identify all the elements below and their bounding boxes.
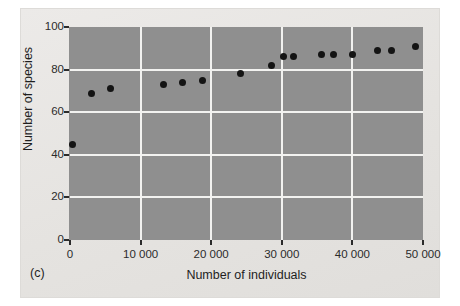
panel-label: (c) xyxy=(30,266,45,280)
data-point xyxy=(199,77,206,84)
gridline-horizontal xyxy=(70,154,423,156)
data-point xyxy=(237,70,244,77)
x-tick-label: 30 000 xyxy=(264,249,299,261)
gridline-vertical xyxy=(140,27,142,240)
data-point xyxy=(268,62,275,69)
data-point xyxy=(330,51,337,58)
data-point xyxy=(107,85,114,92)
y-tick-mark xyxy=(64,26,69,28)
x-tick-label: 40 000 xyxy=(335,249,370,261)
x-tick-mark xyxy=(422,240,424,245)
data-point xyxy=(412,43,419,50)
x-tick-mark xyxy=(69,240,71,245)
y-tick-mark xyxy=(64,111,69,113)
data-point xyxy=(318,51,325,58)
plot-area xyxy=(70,27,423,240)
figure-container: 020406080100 010 00020 00030 00040 00050… xyxy=(0,0,460,306)
gridline-horizontal xyxy=(70,69,423,71)
gridline-horizontal xyxy=(70,196,423,198)
x-axis-title: Number of individuals xyxy=(70,268,423,282)
gridline-vertical xyxy=(351,27,353,240)
gridline-horizontal xyxy=(70,111,423,113)
data-point xyxy=(374,47,381,54)
data-point xyxy=(88,90,95,97)
x-tick-mark xyxy=(351,240,353,245)
y-tick-mark xyxy=(64,196,69,198)
data-point xyxy=(179,79,186,86)
data-point xyxy=(290,53,297,60)
x-tick-label: 50 000 xyxy=(405,249,440,261)
data-point xyxy=(69,141,76,148)
y-tick-label: 20 xyxy=(20,191,64,203)
x-tick-label: 0 xyxy=(67,249,73,261)
x-tick-mark xyxy=(140,240,142,245)
x-tick-label: 10 000 xyxy=(123,249,158,261)
x-tick-mark xyxy=(281,240,283,245)
data-point xyxy=(280,53,287,60)
x-tick-mark xyxy=(210,240,212,245)
y-axis-title: Number of species xyxy=(21,29,35,169)
y-tick-mark xyxy=(64,154,69,156)
gridline-vertical xyxy=(210,27,212,240)
data-point xyxy=(349,51,356,58)
y-tick-mark xyxy=(64,69,69,71)
data-point xyxy=(160,81,167,88)
data-point xyxy=(388,47,395,54)
x-tick-label: 20 000 xyxy=(194,249,229,261)
y-tick-label: 0 xyxy=(20,234,64,246)
